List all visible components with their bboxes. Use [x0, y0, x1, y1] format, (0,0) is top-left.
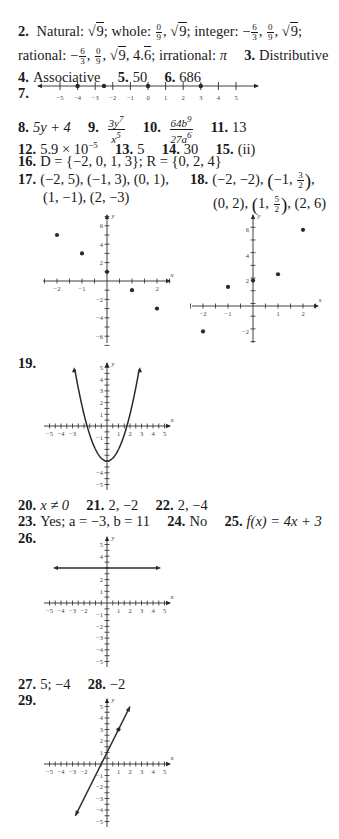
- data-point: [116, 727, 120, 731]
- tick-label: −5: [57, 94, 64, 101]
- tick-label: 4: [100, 376, 104, 383]
- arrow-head-icon: [251, 214, 255, 219]
- arrow-head-icon: [166, 762, 171, 766]
- tick-label: −3: [96, 634, 103, 641]
- tick-label: −5: [46, 768, 53, 775]
- data-point: [75, 84, 79, 88]
- tick-label: 4: [246, 252, 250, 259]
- tick-label: 1: [117, 768, 120, 775]
- tick-label: 3: [100, 387, 103, 394]
- tick-label: −5: [96, 481, 103, 488]
- tick-label: 4: [100, 714, 104, 721]
- tick-label: 5: [163, 430, 166, 437]
- tick-label: 4: [100, 553, 104, 560]
- arrow-head-icon: [314, 304, 319, 308]
- tick-label: −1: [79, 285, 86, 292]
- tick-label: −4: [96, 314, 104, 321]
- tick-label: 5: [163, 768, 166, 775]
- data-point: [301, 228, 305, 232]
- arrow-head-icon: [105, 536, 109, 541]
- tick-label: 1: [164, 94, 167, 101]
- tick-label: 3: [140, 768, 143, 775]
- tick-label: −4: [58, 430, 66, 437]
- tick-label: −1: [127, 94, 134, 101]
- x-axis-label: x: [169, 416, 174, 424]
- tick-label: −5: [96, 658, 103, 665]
- tick-label: 4: [217, 94, 221, 101]
- y-axis-label: y: [110, 534, 115, 542]
- tick-label: −4: [96, 469, 104, 476]
- data-point: [55, 233, 59, 237]
- tick-label: 2: [100, 576, 103, 583]
- arrow-head-icon: [166, 279, 171, 283]
- tick-label: −2: [96, 623, 103, 630]
- tick-label: −3: [92, 94, 99, 101]
- tick-label: −1: [96, 434, 103, 441]
- tick-label: 5: [100, 364, 103, 371]
- y-axis-label: y: [110, 696, 115, 704]
- tick-label: −2: [81, 768, 88, 775]
- data-point: [199, 84, 203, 88]
- tick-label: 3: [100, 726, 103, 733]
- data-point: [251, 279, 255, 283]
- arrow-head-icon: [166, 601, 171, 605]
- tick-label: 4: [100, 241, 104, 248]
- tick-label: 1: [100, 749, 103, 756]
- tick-label: −2: [200, 310, 207, 317]
- tick-label: 3: [140, 607, 143, 614]
- y-axis-label: y: [256, 212, 261, 220]
- tick-label: 4: [151, 768, 155, 775]
- tick-label: −2: [242, 328, 249, 335]
- tick-label: 1: [117, 430, 120, 437]
- tick-label: −1: [96, 611, 103, 618]
- tick-label: 3: [199, 94, 202, 101]
- y-axis-label: y: [110, 360, 115, 368]
- tick-label: 4: [151, 607, 155, 614]
- x-axis-label: x: [169, 271, 174, 279]
- arrow-head-icon: [37, 84, 42, 88]
- tick-label: 5: [100, 541, 103, 548]
- tick-label: −4: [58, 607, 66, 614]
- tick-label: 1: [117, 607, 120, 614]
- tick-label: −3: [69, 607, 76, 614]
- tick-label: −5: [46, 607, 53, 614]
- tick-label: 1: [276, 310, 279, 317]
- arrow-head-icon: [105, 362, 109, 367]
- arrow-head-icon: [53, 566, 58, 570]
- x-axis-label: x: [169, 593, 174, 601]
- tick-label: −2: [109, 94, 116, 101]
- tick-label: 2: [128, 430, 131, 437]
- tick-label: −5: [46, 430, 53, 437]
- tick-label: −6: [96, 333, 104, 340]
- tick-label: −5: [96, 818, 103, 825]
- graphs-layer: −5−4−3−2−1012345xy−2−12642−2−4−6xy−2−112…: [0, 0, 339, 839]
- arrow-head-icon: [156, 566, 161, 570]
- tick-label: −3: [69, 430, 76, 437]
- tick-label: 5: [234, 94, 237, 101]
- tick-label: 2: [100, 259, 103, 266]
- data-point: [155, 307, 159, 311]
- data-point: [102, 84, 106, 88]
- tick-label: −4: [96, 806, 104, 813]
- data-point: [276, 272, 280, 276]
- arrow-head-icon: [166, 424, 171, 428]
- tick-label: 1: [100, 411, 103, 418]
- tick-label: 2: [128, 768, 131, 775]
- data-point: [226, 285, 230, 289]
- tick-label: 2: [301, 310, 304, 317]
- tick-label: 6: [246, 226, 250, 233]
- tick-label: 1: [100, 588, 103, 595]
- tick-label: 0: [146, 94, 149, 101]
- tick-label: −2: [81, 607, 88, 614]
- tick-label: 2: [100, 737, 103, 744]
- tick-label: 2: [155, 285, 158, 292]
- data-point: [105, 270, 109, 274]
- tick-label: −4: [58, 768, 66, 775]
- tick-label: 2: [128, 607, 131, 614]
- tick-label: −1: [225, 310, 232, 317]
- arrow-head-icon: [105, 698, 109, 703]
- arrow-head-icon: [72, 367, 76, 372]
- tick-label: −2: [54, 285, 61, 292]
- x-axis-label: x: [317, 296, 322, 304]
- tick-label: 5: [163, 607, 166, 614]
